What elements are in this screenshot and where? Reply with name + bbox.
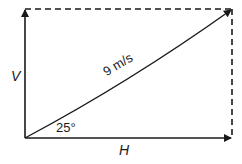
horizontal-component-label: H <box>119 142 129 158</box>
resultant-vector-arrow <box>25 10 231 138</box>
angle-label: 25° <box>56 120 76 135</box>
vector-diagram <box>0 0 242 164</box>
vertical-component-label: V <box>11 68 20 84</box>
